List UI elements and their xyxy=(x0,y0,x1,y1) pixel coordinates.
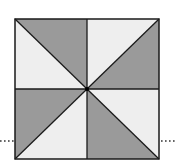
center-point xyxy=(85,87,89,91)
pinwheel-diagram xyxy=(0,0,177,164)
